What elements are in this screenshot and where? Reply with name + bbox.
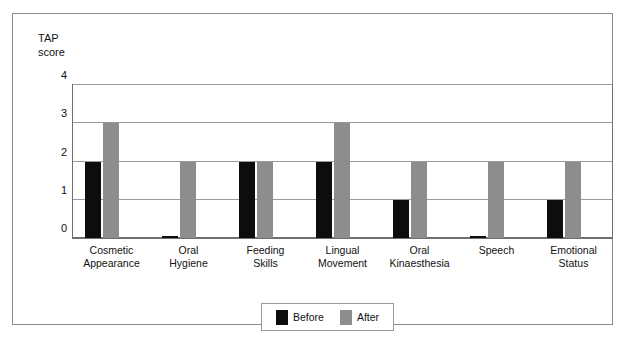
chart-legend: BeforeAfter	[261, 303, 394, 331]
bar-after[interactable]	[334, 123, 350, 238]
y-axis-tick-labels: 01234	[43, 84, 67, 239]
bar-group	[73, 85, 150, 238]
x-axis-label: Oral Hygiene	[150, 244, 227, 270]
bar-before[interactable]	[162, 236, 178, 238]
x-axis-label: Emotional Status	[535, 244, 612, 270]
x-axis-label: Feeding Skills	[227, 244, 304, 270]
bar-before[interactable]	[393, 200, 409, 238]
bar-after[interactable]	[565, 162, 581, 239]
figure-frame: TAP score 01234 Cosmetic AppearanceOral …	[12, 13, 613, 325]
bar-before[interactable]	[239, 162, 255, 239]
bars-layer	[73, 85, 612, 238]
bar-group	[535, 85, 612, 238]
bar-after[interactable]	[488, 162, 504, 239]
legend-swatch-after	[340, 310, 352, 325]
bar-group	[381, 85, 458, 238]
bar-before[interactable]	[316, 162, 332, 239]
x-axis-label: Lingual Movement	[304, 244, 381, 270]
bar-before[interactable]	[547, 200, 563, 238]
bar-group	[304, 85, 381, 238]
legend-entry[interactable]: Before	[276, 310, 324, 325]
bar-before[interactable]	[470, 236, 486, 238]
x-axis-category-labels: Cosmetic AppearanceOral HygieneFeeding S…	[73, 244, 612, 278]
legend-entry[interactable]: After	[340, 310, 379, 325]
bar-group	[458, 85, 535, 238]
y-axis-title: TAP score	[38, 32, 65, 59]
legend-label: After	[357, 312, 379, 323]
bar-after[interactable]	[257, 162, 273, 239]
y-tick-label-4: 4	[43, 70, 67, 81]
x-axis-label: Speech	[458, 244, 535, 257]
bar-after[interactable]	[411, 162, 427, 239]
bar-group	[227, 85, 304, 238]
y-tick-label-3: 3	[43, 108, 67, 119]
bar-group	[150, 85, 227, 238]
y-tick-label-1: 1	[43, 185, 67, 196]
legend-swatch-before	[276, 310, 288, 325]
x-axis-label: Cosmetic Appearance	[73, 244, 150, 270]
x-axis-label: Oral Kinaesthesia	[381, 244, 458, 270]
y-tick-label-2: 2	[43, 147, 67, 158]
bar-before[interactable]	[85, 162, 101, 239]
bar-after[interactable]	[103, 123, 119, 238]
y-tick-label-0: 0	[43, 223, 67, 234]
bar-after[interactable]	[180, 162, 196, 239]
legend-label: Before	[293, 312, 324, 323]
